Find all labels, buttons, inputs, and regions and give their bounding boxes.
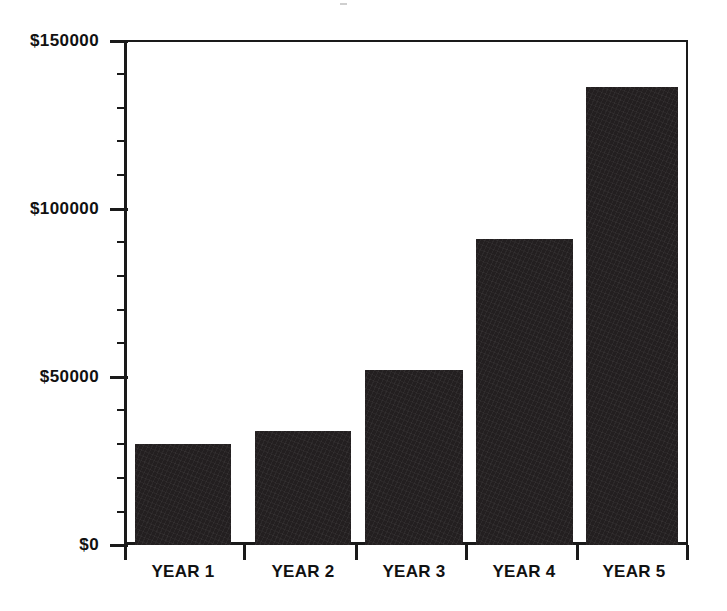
y-axis-tick-label: $100000 [30, 199, 110, 219]
y-axis-tick-label: $150000 [30, 31, 110, 51]
bar-year-5 [586, 87, 678, 545]
x-axis-tick-label-year-3: YEAR 3 [382, 562, 445, 582]
x-axis-tick-label-year-4: YEAR 4 [492, 562, 555, 582]
bar-year-4 [476, 239, 573, 545]
scan-artifact-speck [340, 3, 347, 5]
x-axis-tick [465, 545, 468, 560]
bar-year-2 [255, 431, 351, 545]
x-axis-tick [124, 545, 127, 560]
x-axis-tick [686, 545, 689, 560]
x-axis-tick [355, 545, 358, 560]
bars-layer [124, 40, 688, 545]
x-axis-tick [576, 545, 579, 560]
y-axis-tick-label: $0 [79, 535, 110, 555]
bar-year-1 [135, 444, 231, 545]
x-axis-tick-label-year-5: YEAR 5 [602, 562, 665, 582]
bar-chart: $150000 $100000 $50000 $0 YEAR 1 YEAR 2 … [0, 0, 727, 611]
x-axis-tick [243, 545, 246, 560]
x-axis-tick-label-year-1: YEAR 1 [151, 562, 214, 582]
x-axis-tick-label-year-2: YEAR 2 [271, 562, 334, 582]
y-axis-tick-label: $50000 [40, 367, 110, 387]
bar-year-3 [365, 370, 463, 545]
